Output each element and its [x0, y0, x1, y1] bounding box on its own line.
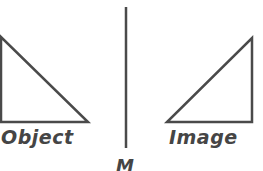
mirror-label: M: [116, 157, 134, 171]
image-label: Image: [169, 128, 238, 147]
object-label: Object: [1, 128, 74, 147]
object-triangle: [1, 37, 88, 122]
image-triangle: [167, 38, 252, 122]
